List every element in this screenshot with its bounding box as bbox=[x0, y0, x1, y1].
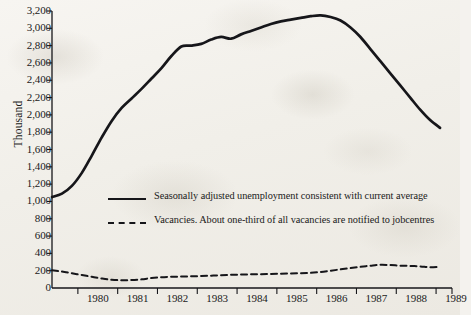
axes-group bbox=[47, 11, 452, 294]
legend-label-vacancies: Vacancies. About one-third of all vacanc… bbox=[154, 214, 434, 225]
vacancies-line bbox=[52, 265, 440, 280]
unemployment-line bbox=[52, 15, 440, 197]
legend-label-unemployment: Seasonally adjusted unemployment consist… bbox=[154, 190, 428, 201]
solid-line-key bbox=[108, 198, 146, 200]
dashed-line-key bbox=[108, 222, 146, 224]
data-series-group bbox=[52, 15, 440, 280]
